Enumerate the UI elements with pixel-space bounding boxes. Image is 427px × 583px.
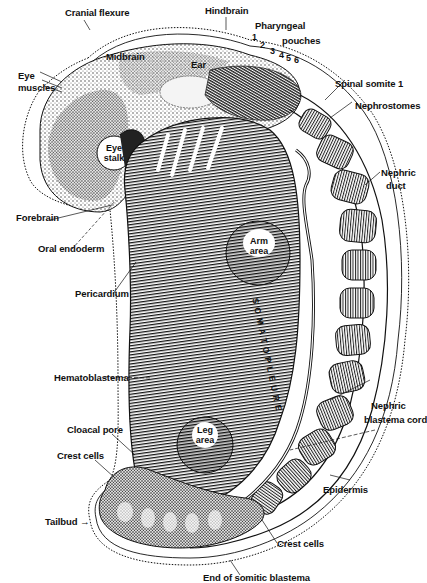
label-nephric-blastema-line1: Nephric — [371, 400, 406, 411]
pouch-number-2: 2 — [260, 40, 265, 50]
label-crest-cells-upper: Crest cells — [57, 450, 104, 461]
label-eye-stalk-line2: stalk — [104, 153, 125, 163]
pouch-number-3: 3 — [270, 46, 275, 56]
label-eye-muscles-line2: muscles — [18, 82, 55, 93]
label-arm-area: Arm area — [243, 236, 275, 256]
label-spinal-somite-1: Spinal somite 1 — [335, 78, 403, 89]
label-eye-stalk-line1: Eye — [106, 143, 122, 153]
label-end-of-somitic-blastema: End of somitic blastema — [203, 572, 310, 583]
label-epidermis: Epidermis — [323, 484, 368, 495]
pouch-number-1: 1 — [252, 32, 257, 42]
pouch-number-6: 6 — [294, 55, 299, 65]
label-arm-area-line1: Arm — [250, 236, 268, 246]
label-eye-stalk: Eye stalk — [98, 143, 130, 163]
pouch-number-4: 4 — [279, 50, 284, 60]
pouch-number-5: 5 — [286, 53, 291, 63]
label-forebrain: Forebrain — [16, 212, 59, 223]
label-pericardium: Pericardium — [75, 288, 129, 299]
label-nephric-blastema-line2: blastema cord — [364, 414, 427, 425]
label-nephric-duct-line1: Nephric — [381, 167, 416, 178]
label-arm-area-line2: area — [250, 246, 269, 256]
label-pharyngeal-line2: pouches — [282, 35, 320, 46]
label-eye-muscles-line1: Eye — [18, 70, 35, 81]
label-midbrain: Midbrain — [106, 51, 145, 62]
label-hematoblastema: Hematoblastema — [54, 372, 129, 383]
label-cloacal-pore: Cloacal pore — [67, 424, 123, 435]
label-tailbud: Tailbud → — [45, 516, 89, 527]
label-leg-area: Leg area — [189, 425, 221, 445]
label-nephric-duct-line2: duct — [386, 180, 406, 191]
label-leg-area-line1: Leg — [197, 425, 213, 435]
label-oral-endoderm: Oral endoderm — [38, 243, 104, 254]
label-crest-cells-lower: Crest cells — [277, 538, 324, 549]
label-cranial-flexure: Cranial flexure — [65, 7, 130, 18]
label-pharyngeal-line1: Pharyngeal — [255, 20, 305, 31]
label-leg-area-line2: area — [196, 435, 215, 445]
label-ear: Ear — [191, 59, 206, 70]
label-hindbrain: Hindbrain — [205, 5, 248, 16]
label-nephrostomes: Nephrostomes — [355, 100, 420, 111]
